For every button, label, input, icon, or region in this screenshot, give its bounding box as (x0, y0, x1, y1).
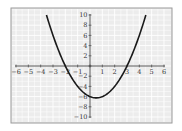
x-tick-label: −5 (24, 68, 34, 76)
x-tick-label: 1 (100, 68, 104, 76)
x-tick-label: −3 (48, 68, 58, 76)
y-tick-label: 8 (83, 21, 87, 29)
y-tick-label: −8 (78, 103, 88, 111)
x-tick-label: −4 (36, 68, 46, 76)
y-tick-label: 6 (83, 32, 87, 40)
y-tick-label: 10 (79, 11, 87, 19)
x-tick-label: 2 (113, 68, 117, 76)
x-tick-label: −6 (11, 68, 21, 76)
parabola-chart: −6−5−4−3−2−1123456 108642−2−4−6−8−10 (0, 0, 182, 131)
y-tick-label: 2 (83, 52, 87, 60)
y-tick-label: 4 (83, 42, 87, 50)
y-tick-label: −2 (78, 72, 88, 80)
x-tick-label: 5 (150, 68, 154, 76)
y-tick-label: −10 (74, 113, 88, 121)
x-tick-label: 4 (137, 68, 141, 76)
x-tick-label: 6 (162, 68, 166, 76)
